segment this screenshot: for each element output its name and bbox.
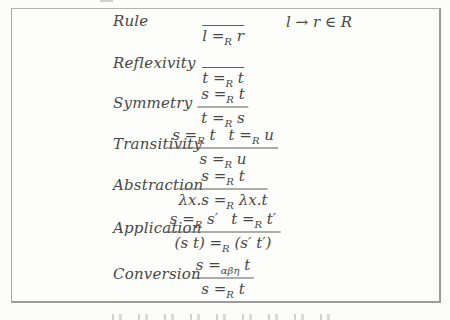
judgment: t =R s <box>201 109 244 127</box>
relation-subscript: R <box>195 219 203 230</box>
premise: s =R tt =R u <box>168 127 278 149</box>
judgment-text: s = <box>199 150 224 168</box>
judgment: s =R s′ <box>170 210 218 228</box>
cropped-caption-fragment <box>112 314 338 320</box>
judgment-text: t <box>234 85 245 103</box>
judgment-text: s′ <box>202 210 218 228</box>
judgment-text: s <box>232 109 244 127</box>
rule-name-label: Symmetry <box>113 94 192 112</box>
judgment-text: t′ <box>262 210 276 228</box>
judgment: t =R t′ <box>231 210 276 228</box>
judgment: (s t) =R (s′ t′) <box>175 234 272 252</box>
judgment-text: s = <box>170 210 195 228</box>
judgment-text: λx.s = <box>179 191 227 209</box>
relation-subscript: R <box>224 36 232 47</box>
inference-fraction: s =R tt =R u s =R u <box>168 127 278 170</box>
inference-fraction: s =R s′t =R t′ (s t) =R (s′ t′) <box>166 211 281 254</box>
conclusion: l =R r <box>202 26 244 47</box>
judgment-text: u <box>259 126 273 144</box>
premise: s =R t <box>197 86 248 108</box>
judgment: s =R t <box>201 167 244 185</box>
judgment: t =R u <box>229 126 274 144</box>
judgment: l =R r <box>202 27 244 45</box>
judgment-text: t = <box>229 126 252 144</box>
side-condition: l → r ∈ R <box>286 13 352 31</box>
judgment: s =R u <box>199 150 246 168</box>
conclusion: (s t) =R (s′ t′) <box>166 233 281 254</box>
judgment-text: s = <box>201 280 226 298</box>
rule-name-label: Rule <box>113 12 148 30</box>
judgment-text: u <box>232 150 246 168</box>
judgment-text: (s t) = <box>175 234 223 252</box>
relation-subscript: R <box>226 289 234 300</box>
relation-subscript: αβη <box>221 265 240 276</box>
scanned-page: Rule l =R r l → r ∈ R Reflexivity t =R t… <box>0 0 450 320</box>
premise: s =R s′t =R t′ <box>166 211 281 233</box>
judgment-text: s = <box>201 85 226 103</box>
rule-name-label: Conversion <box>113 265 201 283</box>
judgment-text: t <box>234 167 245 185</box>
inference-fraction: l =R r <box>202 23 244 47</box>
inference-fraction: s =αβη t s =R t <box>192 257 254 300</box>
judgment-text: l = <box>202 27 224 45</box>
conclusion: s =R t <box>192 279 254 300</box>
page-crop-artifact <box>100 0 113 2</box>
judgment: s =R t <box>201 280 244 298</box>
judgment: s =R t <box>201 85 244 103</box>
judgment-text: t <box>239 256 250 274</box>
inference-rules-box: Rule l =R r l → r ∈ R Reflexivity t =R t… <box>11 8 441 303</box>
rule-name-label: Reflexivity <box>113 54 196 72</box>
judgment-text: r <box>232 27 244 45</box>
judgment-text: t <box>234 280 245 298</box>
conclusion: λx.s =R λx.t <box>179 190 268 211</box>
judgment-text: (s′ t′) <box>230 234 272 252</box>
judgment-text: t = <box>231 210 254 228</box>
relation-subscript: R <box>222 243 230 254</box>
judgment: λx.s =R λx.t <box>179 191 268 209</box>
judgment-text: λx.t <box>234 191 268 209</box>
inference-fraction: s =R t t =R s <box>197 86 248 129</box>
premise: s =R t <box>179 168 268 190</box>
judgment-text: s = <box>196 256 221 274</box>
judgment: s =αβη t <box>196 256 250 274</box>
premise: s =αβη t <box>192 257 254 279</box>
judgment-text: t = <box>201 109 224 127</box>
judgment-text: s = <box>201 167 226 185</box>
relation-subscript: R <box>197 135 205 146</box>
judgment-text: s = <box>172 126 197 144</box>
inference-fraction: s =R t λx.s =R λx.t <box>179 168 268 211</box>
judgment: s =R t <box>172 126 215 144</box>
relation-subscript: R <box>226 94 234 105</box>
judgment-text: t <box>205 126 216 144</box>
